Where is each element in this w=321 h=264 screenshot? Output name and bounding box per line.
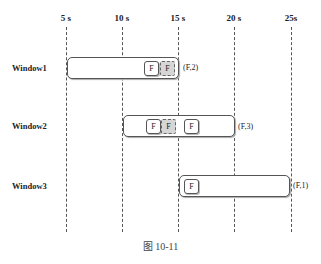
fired-element-box: F [161, 119, 176, 134]
time-gridline [66, 27, 67, 232]
fired-element-box: F [160, 61, 175, 76]
element-box: F [184, 179, 199, 194]
tick-label-5s: 5 s [61, 13, 71, 23]
tick-label-25s: 25s [285, 13, 298, 23]
tick-label-15s: 15 s [171, 13, 186, 23]
window3-bar: F [179, 175, 290, 197]
window2-result: (F,3) [238, 122, 253, 131]
window2-label: Window2 [12, 121, 47, 131]
window3-result: (F,1) [293, 181, 308, 190]
window1-label: Window1 [12, 63, 47, 73]
window2-bar: F F F [123, 115, 235, 137]
tick-label-20s: 20 s [227, 13, 242, 23]
window1-result: (F,2) [183, 63, 198, 72]
time-gridline [291, 27, 292, 232]
element-box: F [144, 61, 159, 76]
element-box: F [146, 119, 161, 134]
figure-caption: 图 10-11 [0, 238, 321, 253]
window3-label: Window3 [12, 181, 47, 191]
window1-bar: F F [67, 57, 179, 79]
element-box: F [184, 119, 199, 134]
tick-label-10s: 10 s [115, 13, 130, 23]
